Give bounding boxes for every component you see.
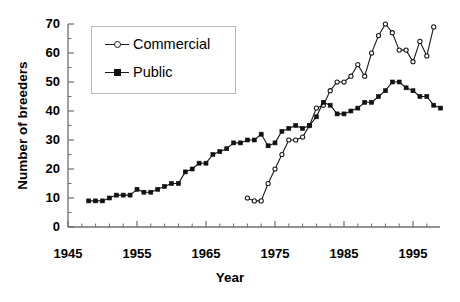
data-point-commercial [370,51,374,55]
data-point-public [432,103,436,107]
x-tick-label: 1975 [245,246,305,261]
data-point-public [232,141,236,145]
data-point-public [425,95,429,99]
data-point-public [239,141,243,145]
data-point-public [114,193,118,197]
data-point-public [266,144,270,148]
data-point-public [225,147,229,151]
data-point-commercial [363,74,367,78]
data-point-public [418,95,422,99]
data-point-public [383,89,387,93]
legend: Commercial Public [91,26,236,94]
data-point-commercial [383,22,387,26]
data-point-public [94,199,98,203]
data-point-commercial [376,34,380,38]
x-tick-label: 1945 [38,246,98,261]
y-tick-label: 10 [14,190,60,205]
series-commercial [245,22,436,203]
data-point-public [211,153,215,157]
data-point-public [377,95,381,99]
data-point-public [142,190,146,194]
data-point-public [197,161,201,165]
data-point-public [287,126,291,130]
data-point-commercial [356,63,360,67]
data-point-commercial [294,138,298,142]
data-point-public [107,196,111,200]
y-tick-label: 50 [14,74,60,89]
data-point-public [356,106,360,110]
series-line-public [89,82,441,201]
data-point-commercial [432,25,436,29]
data-point-public [273,141,277,145]
data-point-commercial [328,89,332,93]
y-tick-label: 0 [14,219,60,234]
data-point-public [314,115,318,119]
data-point-public [245,138,249,142]
data-point-commercial [390,31,394,35]
y-tick-label: 60 [14,45,60,60]
data-point-commercial [335,80,339,84]
data-point-commercial [301,135,305,139]
data-point-commercial [287,138,291,142]
data-point-public [342,112,346,116]
data-point-commercial [425,54,429,58]
y-tick-label: 30 [14,132,60,147]
data-point-public [204,161,208,165]
data-point-public [170,182,174,186]
legend-label-public: Public [133,65,173,80]
data-point-commercial [349,74,353,78]
data-point-public [121,193,125,197]
data-point-public [328,103,332,107]
data-point-commercial [342,80,346,84]
x-axis-label: Year [0,270,460,285]
legend-marker-open-circle-icon [105,38,129,50]
data-point-commercial [245,196,249,200]
data-point-public [135,187,139,191]
data-point-public [301,126,305,130]
data-point-public [308,124,312,128]
data-point-commercial [404,48,408,52]
y-tick-label: 70 [14,16,60,31]
data-point-commercial [418,39,422,43]
data-point-public [390,80,394,84]
data-point-public [411,89,415,93]
data-point-public [404,86,408,90]
data-point-public [397,80,401,84]
data-point-commercial [280,152,284,156]
data-point-commercial [252,199,256,203]
data-point-public [183,170,187,174]
legend-item-commercial: Commercial [105,37,210,52]
series-public [87,80,443,203]
x-tick-label: 1985 [314,246,374,261]
data-point-commercial [259,199,263,203]
data-point-public [280,129,284,133]
legend-item-public: Public [105,65,173,80]
data-point-public [259,132,263,136]
data-point-public [321,100,325,104]
data-point-public [349,109,353,113]
y-tick-label: 40 [14,103,60,118]
data-point-public [335,112,339,116]
legend-label-commercial: Commercial [133,37,210,52]
data-point-public [363,100,367,104]
data-point-public [439,106,443,110]
x-tick-label: 1995 [383,246,443,261]
data-point-commercial [411,60,415,64]
data-point-public [128,193,132,197]
data-point-commercial [397,48,401,52]
data-point-public [176,182,180,186]
data-point-public [294,124,298,128]
data-point-commercial [314,106,318,110]
data-point-public [370,100,374,104]
data-point-commercial [266,181,270,185]
x-tick-label: 1955 [107,246,167,261]
data-point-public [252,138,256,142]
data-point-public [163,184,167,188]
data-point-commercial [273,167,277,171]
data-point-public [87,199,91,203]
legend-marker-filled-square-icon [105,66,129,78]
y-tick-label: 20 [14,161,60,176]
data-point-public [156,187,160,191]
data-point-public [101,199,105,203]
data-point-public [218,150,222,154]
